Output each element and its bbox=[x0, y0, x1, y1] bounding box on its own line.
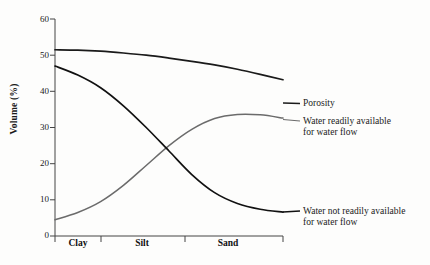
series-line-porosity bbox=[55, 50, 283, 80]
series-line-water-not-readily-available bbox=[55, 66, 283, 212]
leader-lines-group bbox=[283, 103, 300, 212]
series-paths-group bbox=[55, 50, 283, 220]
chart-figure: Volume (%) 60 50 40 30 20 10 0 Clay Silt… bbox=[0, 0, 430, 265]
axes-group bbox=[50, 19, 283, 242]
leader-line-water-not-readily bbox=[283, 211, 300, 212]
chart-canvas bbox=[0, 0, 430, 265]
leader-line-water-readily bbox=[283, 120, 300, 122]
series-line-water-readily-available bbox=[55, 114, 283, 220]
leader-line-porosity bbox=[283, 103, 300, 104]
